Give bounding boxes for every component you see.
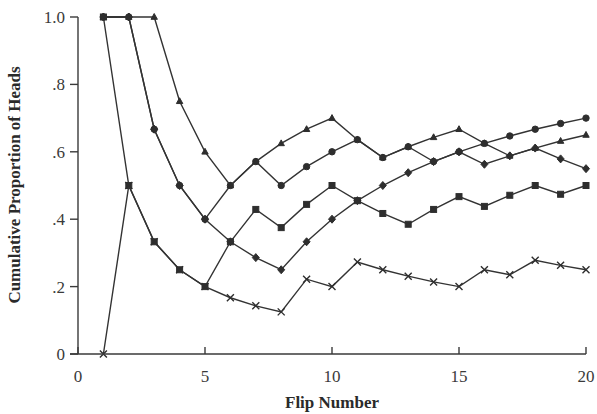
- circle-marker-icon: [303, 163, 309, 169]
- series-diamond: [100, 13, 590, 274]
- square-marker-icon: [354, 198, 360, 204]
- square-marker-icon: [405, 221, 411, 227]
- circle-marker-icon: [557, 120, 563, 126]
- circle-marker-icon: [583, 115, 589, 121]
- square-marker-icon: [507, 192, 513, 198]
- x-axis-ticks: 05101520: [74, 347, 595, 386]
- series-line: [103, 17, 586, 287]
- square-marker-icon: [456, 194, 462, 200]
- square-marker-icon: [481, 203, 487, 209]
- diamond-marker-icon: [456, 148, 463, 156]
- diamond-marker-icon: [151, 125, 158, 133]
- square-marker-icon: [253, 206, 259, 212]
- square-marker-icon: [329, 183, 335, 189]
- triangle-marker-icon: [456, 126, 462, 132]
- x-tick-label: 15: [451, 367, 468, 386]
- y-axis-title: Cumulative Proportion of Heads: [5, 66, 24, 304]
- square-marker-icon: [431, 206, 437, 212]
- square-marker-icon: [583, 183, 589, 189]
- circle-marker-icon: [278, 182, 284, 188]
- y-tick-label: 1.0: [44, 8, 65, 27]
- square-marker-icon: [227, 239, 233, 245]
- square-marker-icon: [278, 225, 284, 231]
- circle-marker-icon: [329, 149, 335, 155]
- y-tick-label: .8: [52, 75, 65, 94]
- series-layer: [100, 13, 590, 358]
- triangle-marker-icon: [176, 98, 182, 104]
- y-tick-label: .4: [52, 210, 65, 229]
- circle-marker-icon: [507, 133, 513, 139]
- series-x: [100, 182, 590, 358]
- x-marker-icon: [354, 258, 361, 265]
- series-triangle: [100, 14, 589, 188]
- x-tick-label: 5: [201, 367, 210, 386]
- y-axis-ticks: 0.2.4.6.81.0: [44, 8, 78, 364]
- x-tick-label: 0: [74, 367, 83, 386]
- line-chart: 0.2.4.6.81.0 05101520 Flip Number Cumula…: [0, 0, 597, 414]
- diamond-marker-icon: [557, 155, 564, 163]
- square-marker-icon: [380, 210, 386, 216]
- square-marker-icon: [532, 183, 538, 189]
- triangle-marker-icon: [583, 131, 589, 137]
- series-line: [103, 17, 586, 270]
- square-marker-icon: [304, 201, 310, 207]
- series-line: [103, 17, 586, 186]
- x-tick-label: 20: [578, 367, 595, 386]
- x-marker-icon: [227, 294, 234, 301]
- diamond-marker-icon: [481, 160, 488, 168]
- triangle-marker-icon: [202, 148, 208, 154]
- circle-marker-icon: [532, 126, 538, 132]
- x-axis-title: Flip Number: [285, 393, 379, 412]
- series-square: [100, 14, 589, 290]
- diamond-marker-icon: [430, 158, 437, 166]
- y-tick-label: 0: [57, 345, 66, 364]
- y-tick-label: .2: [52, 278, 65, 297]
- diamond-marker-icon: [379, 182, 386, 190]
- x-tick-label: 10: [324, 367, 341, 386]
- diamond-marker-icon: [583, 165, 590, 173]
- diamond-marker-icon: [252, 254, 259, 262]
- triangle-marker-icon: [329, 115, 335, 121]
- diamond-marker-icon: [405, 169, 412, 177]
- series-line: [103, 17, 586, 219]
- series-circle: [100, 14, 589, 223]
- square-marker-icon: [100, 14, 106, 20]
- square-marker-icon: [558, 191, 564, 197]
- y-tick-label: .6: [52, 143, 65, 162]
